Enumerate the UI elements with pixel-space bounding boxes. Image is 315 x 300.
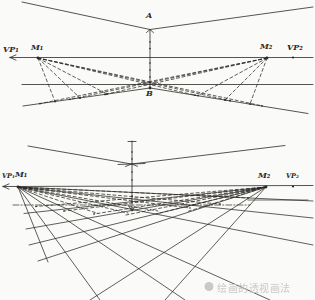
top-label-m2: M₂ bbox=[260, 42, 272, 50]
bottom-label-vp1: VP₁ bbox=[2, 173, 15, 180]
top-point-m2 bbox=[266, 57, 269, 60]
top-point-m1 bbox=[37, 57, 40, 60]
top-receding-line-right bbox=[150, 88, 308, 114]
watermark-circle-icon bbox=[205, 282, 214, 291]
bottom-point-m1 bbox=[17, 186, 20, 189]
top-diagram bbox=[10, 2, 313, 114]
top-dashed-fan-m2 bbox=[40, 58, 267, 104]
top-label-b: B bbox=[146, 89, 153, 97]
top-label-vp1: VP₁ bbox=[3, 45, 19, 53]
top-point-vp2 bbox=[292, 56, 294, 58]
bottom-point-vp2 bbox=[292, 185, 294, 187]
top-label-vp2: VP₂ bbox=[287, 43, 303, 51]
top-label-m1: M₁ bbox=[31, 43, 43, 51]
bottom-label-vp2: VP₂ bbox=[286, 173, 299, 180]
perspective-diagram-figure: A VP₁ M₁ M₂ VP₂ B VP₁ M₁ M₂ VP₂ 绘画的透视画法 bbox=[0, 0, 315, 300]
bottom-label-m1: M₁ bbox=[15, 170, 27, 178]
top-v-lines bbox=[22, 2, 313, 30]
top-label-a: A bbox=[146, 11, 152, 19]
bottom-label-m2: M₂ bbox=[258, 171, 270, 179]
bottom-v-lines bbox=[28, 146, 285, 165]
bottom-point-m2 bbox=[265, 186, 268, 189]
bottom-diagram bbox=[3, 141, 313, 300]
watermark-text: 绘画的透视画法 bbox=[217, 280, 291, 295]
